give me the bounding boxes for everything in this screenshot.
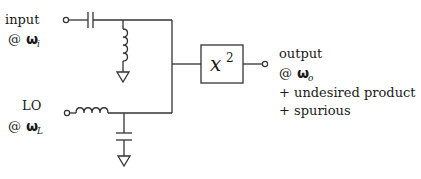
shunt-inductor-icon [123, 29, 128, 61]
output-freq-prefix: @ [279, 66, 292, 81]
output-spurious: + spurious [279, 103, 351, 118]
lo-label: LO [22, 98, 41, 113]
series-capacitor-icon [88, 12, 93, 28]
input-label: input [5, 12, 40, 27]
mixer-circuit-diagram: input @ ω i LO @ ω L x 2 output @ ω o + … [0, 0, 421, 179]
output-subscript: o [308, 73, 314, 83]
lo-freq-prefix: @ [8, 119, 21, 134]
input-freq-prefix: @ [8, 32, 21, 47]
output-label: output [279, 46, 323, 61]
input-terminal[interactable] [63, 17, 68, 22]
block-exponent: 2 [226, 51, 234, 65]
lo-subscript: L [36, 126, 43, 136]
series-inductor-icon [76, 108, 108, 113]
ground-icon [117, 72, 129, 82]
output-undesired-product: + undesired product [279, 85, 416, 100]
shunt-capacitor-icon [116, 133, 132, 140]
block-base: x [210, 52, 221, 76]
lo-terminal[interactable] [64, 110, 69, 115]
squarer-block [201, 45, 243, 83]
ground-icon [118, 156, 130, 166]
output-terminal[interactable] [262, 61, 267, 66]
input-subscript: i [37, 39, 40, 49]
